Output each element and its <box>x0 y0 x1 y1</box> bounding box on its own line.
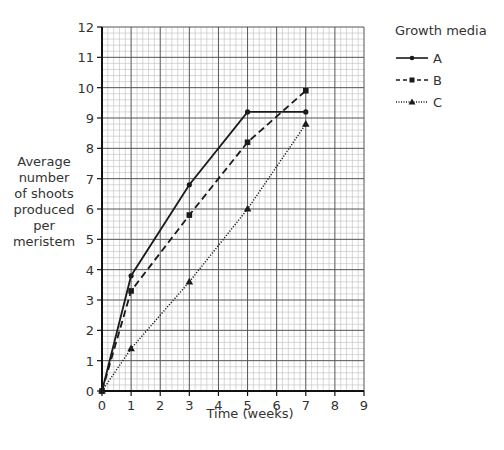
svg-text:0: 0 <box>86 384 94 399</box>
legend-label: A <box>433 51 442 66</box>
dashed-line-square-marker-icon <box>395 75 429 85</box>
svg-text:11: 11 <box>77 50 94 65</box>
y-axis-label-line: meristem <box>0 234 88 250</box>
svg-text:2: 2 <box>156 398 164 413</box>
legend-item-a: A <box>395 49 442 67</box>
legend-label: C <box>433 95 442 110</box>
svg-text:10: 10 <box>77 81 94 96</box>
y-axis-label: Average number of shoots produced per me… <box>0 154 88 250</box>
svg-text:2: 2 <box>86 323 94 338</box>
legend-item-c: C <box>395 93 442 111</box>
solid-line-circle-marker-icon <box>395 53 429 63</box>
y-axis-label-line: Average <box>0 154 88 170</box>
svg-text:0: 0 <box>98 398 106 413</box>
x-axis-label: Time (weeks) <box>190 406 310 421</box>
y-axis-label-line: of shoots <box>0 186 88 202</box>
legend-label: B <box>433 73 442 88</box>
svg-text:1: 1 <box>86 354 94 369</box>
svg-text:4: 4 <box>86 263 94 278</box>
svg-text:9: 9 <box>360 398 368 413</box>
legend-title: Growth media <box>395 23 487 38</box>
svg-text:8: 8 <box>331 398 339 413</box>
svg-text:1: 1 <box>127 398 135 413</box>
tick-labels: 01234567891011120123456789 <box>77 20 368 413</box>
svg-text:12: 12 <box>77 20 94 35</box>
dotted-line-triangle-marker-icon <box>395 97 429 107</box>
y-axis-label-line: per <box>0 218 88 234</box>
y-axis-label-line: number <box>0 170 88 186</box>
legend-item-b: B <box>395 71 442 89</box>
data-series <box>98 88 309 394</box>
svg-text:9: 9 <box>86 111 94 126</box>
y-axis-label-line: produced <box>0 202 88 218</box>
svg-text:3: 3 <box>86 293 94 308</box>
